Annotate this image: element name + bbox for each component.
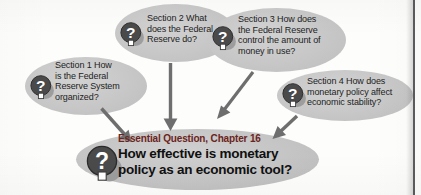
essential-question-diagram: ? Section 2 What does the Federal Reserv… xyxy=(0,0,421,195)
svg-text:?: ? xyxy=(36,77,45,94)
question-mark-medallion-icon: ? xyxy=(29,74,55,100)
page-edge-shadow xyxy=(406,0,413,195)
essential-question-eyebrow: Essential Question, Chapter 16 xyxy=(118,133,261,144)
svg-text:?: ? xyxy=(95,148,109,174)
svg-text:?: ? xyxy=(126,24,135,41)
svg-text:?: ? xyxy=(288,85,297,102)
arrow-section-2 xyxy=(164,63,178,131)
essential-question-text: How effective is monetary policy as an e… xyxy=(118,146,323,177)
section-1-label: Section 1 How is the Federal Reserve Sys… xyxy=(55,60,143,102)
arrow-section-3 xyxy=(217,72,253,119)
svg-text:?: ? xyxy=(218,28,227,45)
question-mark-medallion-icon: ? xyxy=(281,82,307,108)
question-mark-medallion-icon: ? xyxy=(211,25,237,51)
question-mark-medallion-icon: ? xyxy=(119,21,145,47)
section-3-label: Section 3 How does the Federal Reserve c… xyxy=(238,14,342,56)
section-4-label: Section 4 How does monetary policy affec… xyxy=(307,76,413,108)
page-edge-rule xyxy=(413,0,415,195)
